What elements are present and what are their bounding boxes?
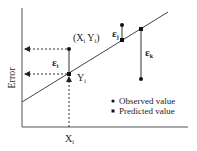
- observed-point-i: [67, 47, 71, 51]
- legend: Observed value Predicted value: [111, 96, 175, 116]
- epsilon-k-label: εk: [145, 46, 154, 59]
- legend-predicted-marker: [112, 110, 115, 113]
- epsilon-j-label: εj: [112, 27, 119, 40]
- point-label: (Xi Yi): [73, 32, 100, 44]
- legend-observed-label: Observed value: [119, 96, 175, 106]
- predicted-point-k: [139, 27, 143, 31]
- predicted-point-j: [120, 38, 124, 42]
- xi-label: Xi: [65, 133, 74, 145]
- y-axis-label: Error: [6, 67, 17, 89]
- legend-observed-marker: [111, 99, 114, 102]
- yi-label: Yi: [77, 72, 86, 84]
- legend-predicted-label: Predicted value: [119, 106, 175, 116]
- epsilon-i-label: εi: [52, 56, 59, 69]
- regression-error-diagram: Error (Xi Yi) Yi εi εj εk Xi Observed va…: [0, 0, 197, 151]
- predicted-point-i: [67, 72, 71, 76]
- observed-point-j: [120, 23, 124, 27]
- observed-point-k: [139, 77, 143, 81]
